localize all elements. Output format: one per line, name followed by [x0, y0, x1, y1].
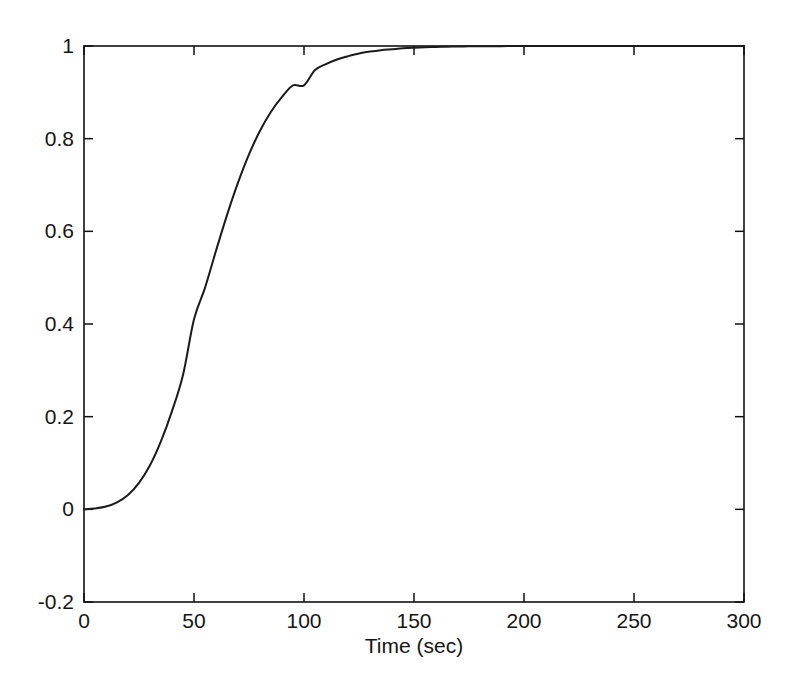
- x-tick-label: 150: [396, 609, 431, 632]
- y-tick-label: 0.6: [45, 219, 74, 242]
- x-tick-label: 300: [726, 609, 761, 632]
- plot-area: 050100150200250300 -0.200.20.40.60.81 Ti…: [0, 0, 796, 677]
- y-tick-label: 0.2: [45, 405, 74, 428]
- data-series-group: [84, 46, 744, 509]
- x-tick-label: 50: [182, 609, 205, 632]
- y-tick-label: 0.8: [45, 127, 74, 150]
- x-tick-label: 200: [506, 609, 541, 632]
- y-tick-label: -0.2: [38, 590, 74, 613]
- tick-marks-group: [84, 46, 744, 602]
- data-line-step-response: [84, 46, 744, 509]
- x-axis-title: Time (sec): [365, 634, 463, 657]
- y-tick-label: 0.4: [45, 312, 75, 335]
- axes-frame: [84, 46, 744, 602]
- y-tick-label: 0: [62, 497, 74, 520]
- x-tick-label: 0: [78, 609, 90, 632]
- figure-canvas: 050100150200250300 -0.200.20.40.60.81 Ti…: [0, 0, 796, 677]
- x-tick-label: 100: [286, 609, 321, 632]
- y-tick-label: 1: [62, 34, 74, 57]
- x-tick-label: 250: [616, 609, 651, 632]
- y-tick-labels-group: -0.200.20.40.60.81: [38, 34, 74, 613]
- axes-box: [84, 46, 744, 602]
- x-tick-labels-group: 050100150200250300: [78, 609, 761, 632]
